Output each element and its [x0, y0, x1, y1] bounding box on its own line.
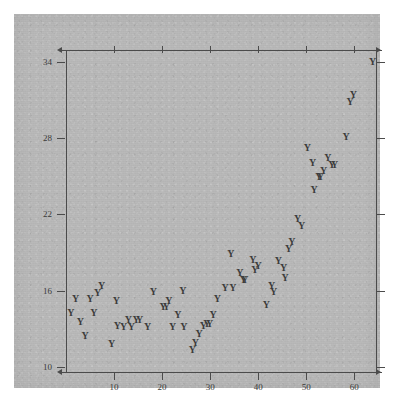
- x-tick-top: [258, 46, 259, 53]
- data-point-marker: Y: [72, 294, 79, 304]
- data-point-marker: Y: [229, 283, 236, 293]
- y-tick-left: [57, 138, 65, 139]
- y-axis-right-line: [376, 50, 377, 373]
- data-point-marker: Y: [98, 281, 105, 291]
- figure-panel: 102030405060 1016222834 YYYYYYYYYYYYYYYY…: [14, 14, 380, 388]
- y-tick-label: 28: [28, 133, 52, 143]
- data-point-marker: Y: [331, 160, 338, 170]
- data-point-marker: Y: [288, 237, 295, 247]
- x-tick-bottom: [306, 373, 307, 380]
- data-point-marker: Y: [298, 221, 305, 231]
- data-point-marker: Y: [255, 261, 262, 271]
- x-tick-label: 30: [198, 382, 222, 392]
- data-point-marker: Y: [282, 273, 289, 283]
- x-tick-label: 60: [342, 382, 366, 392]
- data-point-marker: Y: [113, 296, 120, 306]
- x-tick-label: 20: [150, 382, 174, 392]
- data-point-marker: Y: [227, 249, 234, 259]
- y-tick-label: 16: [28, 286, 52, 296]
- x-tick-top: [210, 46, 211, 53]
- data-point-marker: Y: [350, 90, 357, 100]
- y-tick-label: 10: [28, 362, 52, 372]
- y-tick-right: [377, 291, 385, 292]
- data-point-marker: Y: [180, 322, 187, 332]
- data-point-marker: Y: [263, 300, 270, 310]
- x-tick-bottom: [210, 373, 211, 380]
- y-tick-label: 34: [28, 57, 52, 67]
- data-point-marker: Y: [169, 322, 176, 332]
- data-point-marker: Y: [343, 132, 350, 142]
- data-point-marker: Y: [90, 308, 97, 318]
- data-point-marker: Y: [369, 57, 376, 67]
- scanned-page: 102030405060 1016222834 YYYYYYYYYYYYYYYY…: [0, 0, 402, 407]
- x-tick-bottom: [162, 373, 163, 380]
- x-tick-bottom: [114, 373, 115, 380]
- x-tick-label: 10: [102, 382, 126, 392]
- y-tick-right: [377, 62, 385, 63]
- cropped-header-text: [14, 0, 344, 8]
- y-tick-right: [377, 214, 385, 215]
- data-point-marker: Y: [67, 308, 74, 318]
- data-point-marker: Y: [209, 310, 216, 320]
- data-point-marker: Y: [150, 287, 157, 297]
- data-point-marker: Y: [179, 286, 186, 296]
- data-point-marker: Y: [320, 166, 327, 176]
- x-tick-top: [306, 46, 307, 53]
- scatter-plot: 102030405060 1016222834 YYYYYYYYYYYYYYYY…: [66, 54, 376, 369]
- data-point-marker: Y: [77, 317, 84, 327]
- data-point-marker: Y: [136, 315, 143, 325]
- bottom-axis-right-arrow: [376, 369, 381, 375]
- y-axis-left-line: [66, 50, 67, 373]
- bottom-axis-left-arrow: [57, 369, 62, 375]
- top-axis-left-arrow: [57, 47, 62, 53]
- data-point-marker: Y: [221, 283, 228, 293]
- top-axis-right-arrow: [376, 47, 381, 53]
- x-tick-top: [162, 46, 163, 53]
- x-tick-bottom: [354, 373, 355, 380]
- x-tick-label: 50: [294, 382, 318, 392]
- x-tick-bottom: [258, 373, 259, 380]
- data-point-marker: Y: [310, 185, 317, 195]
- y-tick-left: [57, 62, 65, 63]
- x-tick-top: [354, 46, 355, 53]
- data-point-marker: Y: [165, 296, 172, 306]
- data-point-marker: Y: [108, 339, 115, 349]
- y-tick-left: [57, 291, 65, 292]
- data-point-marker: Y: [214, 294, 221, 304]
- data-point-marker: Y: [270, 287, 277, 297]
- x-axis-top-line: [60, 50, 382, 51]
- x-axis-bottom-line: [60, 372, 382, 373]
- y-tick-right: [377, 138, 385, 139]
- y-tick-label: 22: [28, 209, 52, 219]
- data-point-marker: Y: [309, 158, 316, 168]
- data-point-marker: Y: [144, 322, 151, 332]
- x-tick-label: 40: [246, 382, 270, 392]
- y-tick-right: [377, 367, 385, 368]
- data-point-marker: Y: [82, 331, 89, 341]
- y-tick-left: [57, 214, 65, 215]
- data-point-marker: Y: [174, 310, 181, 320]
- data-point-marker: Y: [86, 294, 93, 304]
- data-point-marker: Y: [206, 319, 213, 329]
- x-tick-top: [114, 46, 115, 53]
- data-point-marker: Y: [241, 275, 248, 285]
- data-point-marker: Y: [192, 338, 199, 348]
- y-tick-left: [57, 367, 65, 368]
- data-point-marker: Y: [304, 143, 311, 153]
